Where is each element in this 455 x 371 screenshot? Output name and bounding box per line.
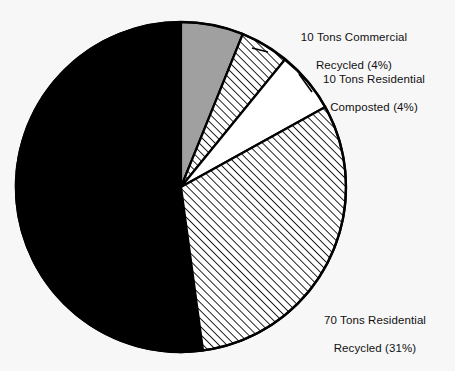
label-residential-recycled: 70 Tons Residential Recycled (31%) [300, 299, 450, 369]
label-commercial-recycled-line1: 10 Tons Commercial [266, 30, 442, 44]
label-residential-composted-line2: Composted (4%) [298, 100, 450, 114]
pie-slice-landfilled-black[interactable] [16, 22, 203, 352]
label-residential-recycled-line2: Recycled (31%) [300, 341, 450, 355]
label-residential-composted: 10 Tons Residential Composted (4%) [298, 58, 450, 128]
label-residential-composted-line1: 10 Tons Residential [298, 72, 450, 86]
pie-chart-figure: 10 Tons Commercial Recycled (4%) 10 Tons… [0, 0, 455, 371]
clipped-title-remnant [150, 0, 320, 5]
label-residential-recycled-line1: 70 Tons Residential [300, 313, 450, 327]
